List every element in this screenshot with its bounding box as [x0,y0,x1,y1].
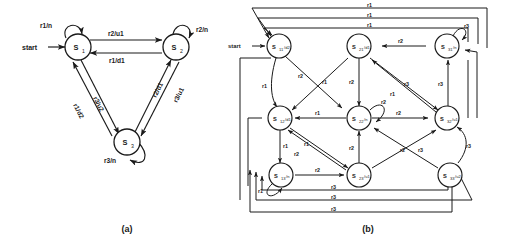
edge-label-s3-s1: r1/d2 [72,102,86,120]
state-label-s1: S [74,43,79,52]
state-label-s23: S [352,173,356,179]
state-out-s23: /u1 [364,174,370,179]
state-node-s21[interactable]: S 21 /d1 [347,34,371,58]
edge-label-s13-s23: r2 [315,167,320,173]
edge-label-s23-s12: r2 [294,151,299,157]
figure-svg: start r1/n r2/n r3/n r2/u1 r1/d1 r3/u2 r… [0,0,506,250]
state-label-s22: S [352,116,356,122]
edge-label-s13-self: r1 [258,188,263,194]
edge-label-s31-s21: r2 [398,38,403,44]
state-node-s11[interactable]: S 11 /d2 [267,34,291,58]
right-rail-1 [465,50,477,118]
state-node-s13[interactable]: S 13 /n [269,163,293,187]
state-node-s32[interactable]: S 32 /u1 [435,106,459,130]
edge-label-s12-s13: r1 [283,143,288,149]
state-node-s2[interactable]: S 2 [163,34,189,60]
edge-s11-s12 [271,58,277,107]
start-label-b: start [228,43,241,49]
state-node-s3[interactable]: S 3 [114,129,140,155]
start-label-a: start [22,44,38,51]
edge-label-s1-self: r1/n [40,22,52,29]
edge-label-s21-s22: r2 [349,79,354,85]
edge-s33-s32 [457,127,466,163]
state-label-s2: S [172,43,177,52]
caption-a: (a) [122,224,133,234]
edge-s23-s32 [372,130,436,168]
state-node-s31[interactable]: S 31 /n [435,34,459,58]
return-label-t2: r1 [367,12,372,18]
state-label-s33: S [443,173,447,179]
state-label-s31: S [441,44,445,50]
edge-s12-s23 [290,128,348,168]
edge-label-s2-s3: r3/u1 [172,86,186,104]
state-node-s22[interactable]: S 22 /n [347,106,371,130]
return-label-t3: r1 [367,22,372,28]
edge-s23-s12 [288,130,346,170]
edge-label-s22-self: r2 [381,99,386,105]
state-label-s11: S [272,44,276,50]
edge-s22-self [370,105,384,122]
state-out-s33: /u2 [455,174,461,179]
edge-s3-s1 [73,62,112,136]
edge-label-s3-self: r3/n [104,157,116,164]
edge-label-s2-self: r2/n [196,26,208,33]
edge-s11-s22 [285,56,342,108]
edge-s21-s12 [292,58,348,110]
state-out-s11: /d2 [284,45,290,50]
edge-label-s2-s1: r1/d1 [109,57,125,64]
return-label-b2: r3 [331,194,336,200]
caption-b: (b) [362,224,374,234]
return-label-b3: r3 [331,206,336,212]
state-node-s1[interactable]: S 1 [65,34,91,60]
edge-label-s21-s12: r1 [322,79,327,85]
edge-label-s32-s21: r1 [390,91,395,97]
state-label-s3: S [123,138,128,147]
state-label-s32: S [440,116,444,122]
return-label-t1: r1 [367,2,372,8]
panel-a: start r1/n r2/n r3/n r2/u1 r1/d1 r3/u2 r… [22,22,208,234]
edge-label-s11-s22: r2 [298,73,303,79]
edge-label-s11-s12: r1 [262,83,267,89]
state-sub-s1: 1 [82,48,85,54]
edge-label-s32-s31: r3 [438,81,443,87]
edge-label-s22-s12: r1 [315,110,320,116]
edge-label-s22-s32: r2 [396,110,401,116]
edge-label-s33-s32: r3 [466,143,471,149]
state-out-s32: /u1 [452,117,458,122]
edge-label-s31-self: r3 [464,23,469,29]
state-node-s12[interactable]: S 12 /d1 [268,106,292,130]
state-sub-s2: 2 [180,48,183,54]
state-out-s12: /d1 [285,117,291,122]
state-label-s21: S [352,44,356,50]
state-label-s12: S [273,116,277,122]
edge-label-s1-s2: r2/u1 [108,30,124,37]
state-sub-s3: 3 [131,143,134,149]
state-label-s13: S [274,173,278,179]
state-node-s33[interactable]: S 33 /u2 [438,163,462,187]
edge-label-s23-s32: r3 [418,147,423,153]
state-node-s23[interactable]: S 23 /u1 [347,163,371,187]
figure-container: start r1/n r2/n r3/n r2/u1 r1/d1 r3/u2 r… [0,0,506,250]
return-label-b1: r3 [331,184,336,190]
edge-label-s23-s22: r2 [349,145,354,151]
panel-b: r3 r3 r3 r1 r1 r1 start r2 r1 r2 r2 r1 r… [228,2,487,234]
state-out-s21: /d1 [364,45,370,50]
